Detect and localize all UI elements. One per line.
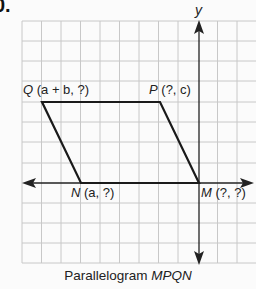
y-axis-label: y — [195, 2, 202, 18]
point-q-name: Q — [23, 82, 33, 97]
caption-prefix: Parallelogram — [64, 268, 151, 283]
figure-caption: Parallelogram MPQN — [0, 268, 256, 283]
point-p-coords: (?, c) — [161, 82, 191, 97]
grid-lines — [22, 21, 256, 263]
point-n-label: N (a, ?) — [71, 185, 114, 200]
point-m-name: M — [201, 185, 212, 200]
point-m-label: M (?, ?) — [201, 185, 246, 200]
point-p-label: P (?, c) — [149, 82, 191, 97]
caption-shape-name: MPQN — [151, 268, 192, 283]
coordinate-grid — [0, 0, 256, 289]
point-q-label: Q (a + b, ?) — [23, 82, 89, 97]
point-p-name: P — [149, 82, 158, 97]
point-q-coords: (a + b, ?) — [37, 82, 89, 97]
point-m-coords: (?, ?) — [215, 185, 245, 200]
point-n-coords: (a, ?) — [84, 185, 114, 200]
point-n-name: N — [71, 185, 80, 200]
